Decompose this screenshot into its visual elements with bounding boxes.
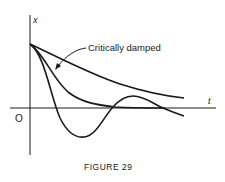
t-axis-label: t [208, 96, 211, 106]
damping-figure: x t O Critically damped FIGURE 29 [0, 0, 225, 182]
y-axis-label: x [32, 15, 38, 25]
origin-label: O [15, 113, 23, 124]
underdamped-curve [30, 44, 184, 137]
critically-damped-annotation: Critically damped [88, 42, 161, 53]
figure-caption: FIGURE 29 [84, 162, 132, 172]
